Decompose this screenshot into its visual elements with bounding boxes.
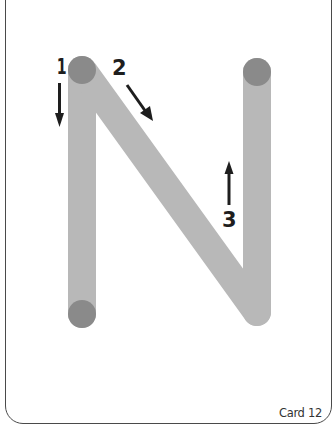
- endpoint-top-right-dot: [243, 58, 271, 86]
- step-number-3: 3: [222, 210, 237, 231]
- step-number-1: 1: [57, 57, 67, 78]
- arrow-down-icon: [55, 83, 64, 127]
- card-number-label: Card 12: [279, 406, 322, 420]
- endpoint-top-left-dot: [68, 56, 96, 84]
- endpoint-bottom-left-dot: [68, 300, 96, 328]
- arrow-up-icon: [225, 161, 234, 205]
- stroke-2-diagonal: [84, 72, 257, 312]
- step-number-2: 2: [112, 58, 127, 79]
- letter-n-tracing-guide: [0, 0, 335, 427]
